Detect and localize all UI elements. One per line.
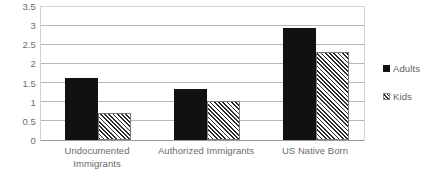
y-tick-label: 2 — [0, 59, 36, 69]
y-tick-label: 2.5 — [0, 40, 36, 50]
x-category-label-undocumented-immigrants: Undocumented Immigrants — [47, 145, 147, 170]
y-tick-label: 3.5 — [0, 2, 36, 12]
x-category-line: US Native Born — [265, 145, 365, 158]
legend-entry-kids: Kids — [383, 91, 441, 102]
y-tick-label: 1 — [0, 98, 36, 108]
x-category-label-us-native-born: US Native Born — [265, 145, 365, 158]
bar-adults-authorized-immigrants — [174, 89, 207, 140]
bars-layer — [41, 7, 364, 141]
legend-swatch-kids-icon — [383, 93, 390, 100]
bar-kids-authorized-immigrants — [207, 101, 240, 140]
legend-label-adults: Adults — [393, 63, 420, 74]
plot-area — [40, 6, 365, 141]
legend: Adults Kids — [383, 63, 441, 119]
legend-swatch-adults-icon — [383, 65, 390, 72]
bar-adults-undocumented-immigrants — [65, 78, 98, 140]
x-category-label-authorized-immigrants: Authorized Immigrants — [156, 145, 256, 158]
y-tick-label: 3 — [0, 21, 36, 31]
bar-chart: 3.5 3 2.5 2 1.5 1 0.5 0 Undocume — [0, 0, 441, 183]
bar-kids-undocumented-immigrants — [98, 113, 131, 140]
legend-entry-adults: Adults — [383, 63, 441, 74]
legend-label-kids: Kids — [393, 91, 412, 102]
x-category-line: Undocumented — [47, 145, 147, 158]
bar-adults-us-native-born — [283, 28, 316, 140]
x-category-line: Authorized Immigrants — [156, 145, 256, 158]
x-axis: Undocumented Immigrants Authorized Immig… — [40, 145, 365, 181]
y-tick-label: 1.5 — [0, 79, 36, 89]
x-category-line: Immigrants — [47, 158, 147, 171]
bar-kids-us-native-born — [316, 52, 349, 140]
y-axis: 3.5 3 2.5 2 1.5 1 0.5 0 — [0, 0, 36, 183]
y-tick-label: 0.5 — [0, 117, 36, 127]
y-tick-label: 0 — [0, 136, 36, 146]
